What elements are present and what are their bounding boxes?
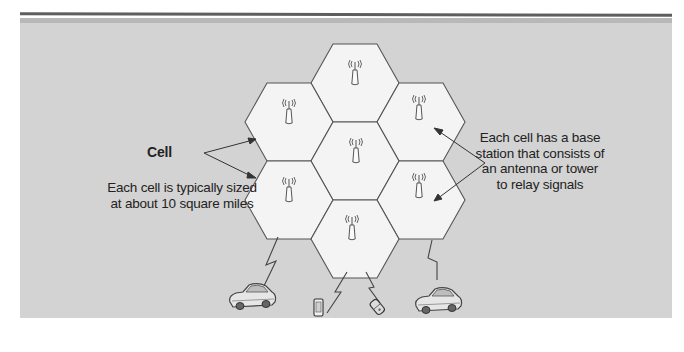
cell-size-caption: Each cell is typically sized at about 10… bbox=[102, 180, 262, 212]
car-icon bbox=[230, 284, 276, 310]
signal-bolt-icon bbox=[428, 240, 437, 280]
cell-label: Cell bbox=[147, 145, 172, 160]
car-icon bbox=[416, 288, 462, 314]
base-station-caption: Each cell has a base station that consis… bbox=[475, 130, 605, 192]
smartphone-icon bbox=[314, 299, 323, 316]
signal-bolt-icon bbox=[262, 237, 278, 290]
cell-arrows bbox=[204, 138, 256, 178]
flip-phone-icon bbox=[369, 298, 386, 315]
